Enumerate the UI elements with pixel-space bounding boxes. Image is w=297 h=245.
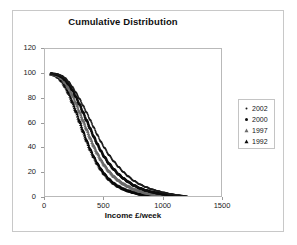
series-1997 — [49, 72, 189, 197]
legend-label: 2002 — [251, 104, 268, 113]
legend-label: 1992 — [251, 137, 268, 146]
legend-item-1992[interactable]: 1992 — [239, 136, 274, 147]
legend-label: 2000 — [251, 115, 268, 124]
y-tick-label: 20 — [14, 167, 36, 176]
y-tick-label: 100 — [14, 68, 36, 77]
plot-area — [44, 48, 222, 197]
x-tick-label: 1500 — [209, 201, 235, 210]
legend-marker-icon — [242, 126, 251, 135]
y-tick-label: 40 — [14, 142, 36, 151]
y-tick-label: 60 — [14, 118, 36, 127]
legend-item-2000[interactable]: 2000 — [239, 114, 274, 125]
legend-item-2002[interactable]: 2002 — [239, 103, 274, 114]
y-tick-label: 120 — [14, 43, 36, 52]
x-axis-label: Income £/week — [44, 211, 222, 220]
data-series-canvas — [45, 49, 222, 197]
x-tick-label: 1000 — [150, 201, 176, 210]
x-tick-mark — [44, 197, 45, 200]
legend-marker-icon — [242, 104, 251, 113]
y-tick-label: 0 — [14, 192, 36, 201]
x-tick-label: 500 — [90, 201, 116, 210]
chart-legend: 2002200019971992 — [238, 99, 275, 149]
x-tick-mark — [103, 197, 104, 200]
chart-title: Cumulative Distribution — [0, 16, 246, 27]
x-tick-mark — [163, 197, 164, 200]
chart-figure: Cumulative Distribution 020406080100120 … — [0, 0, 297, 245]
legend-marker-icon — [242, 137, 251, 146]
x-tick-label: 0 — [31, 201, 57, 210]
y-tick-label: 80 — [14, 93, 36, 102]
legend-marker-icon — [242, 115, 251, 124]
legend-item-1997[interactable]: 1997 — [239, 125, 274, 136]
x-tick-mark — [222, 197, 223, 200]
legend-label: 1997 — [251, 126, 268, 135]
